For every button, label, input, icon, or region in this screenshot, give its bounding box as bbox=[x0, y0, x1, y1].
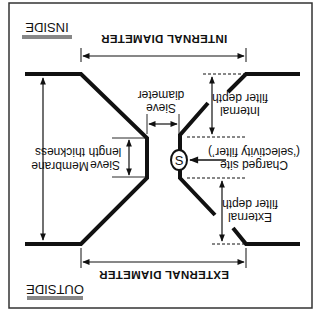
inside-label: INSIDE bbox=[25, 20, 69, 35]
external-diameter-label: EXTERNAL DIAMETER bbox=[99, 269, 230, 281]
svg-text:thickness: thickness bbox=[35, 145, 85, 159]
inside-label-group: INSIDE bbox=[22, 20, 72, 38]
outside-label: OUTSIDE bbox=[26, 282, 84, 297]
outside-label-group: OUTSIDE bbox=[26, 282, 84, 299]
external-filter-depth-label: External filter depth bbox=[222, 197, 278, 224]
svg-text:Sieve: Sieve bbox=[90, 158, 120, 172]
internal-filter-depth-label: Internal filter depth bbox=[212, 91, 268, 118]
membrane-wall-right-inner-bottom bbox=[180, 170, 215, 215]
sieve-diameter-label: Sieve diameter bbox=[138, 88, 185, 115]
membrane-wall-right-inner-top bbox=[180, 103, 208, 150]
ion-channel-diagram: INSIDE OUTSIDE INTERNAL DIAMETER EXTERNA… bbox=[0, 0, 321, 312]
diagram-canvas: INSIDE OUTSIDE INTERNAL DIAMETER EXTERNA… bbox=[0, 0, 321, 312]
svg-text:Internal: Internal bbox=[220, 104, 260, 118]
svg-text:External: External bbox=[228, 210, 272, 224]
svg-text:length: length bbox=[89, 145, 122, 159]
membrane-wall-right-bottom bbox=[233, 228, 300, 244]
svg-text:filter depth: filter depth bbox=[212, 91, 268, 105]
svg-text:Sieve: Sieve bbox=[146, 101, 176, 115]
internal-diameter-label: INTERNAL DIAMETER bbox=[100, 33, 227, 45]
sieve-length-label: Sieve length bbox=[89, 145, 122, 172]
svg-text:(‘selectivity filter’): (‘selectivity filter’) bbox=[208, 145, 300, 159]
svg-text:Membrane: Membrane bbox=[31, 159, 89, 173]
charged-site-symbol: S bbox=[175, 153, 184, 168]
svg-text:filter depth: filter depth bbox=[222, 197, 278, 211]
membrane-wall-right-top bbox=[228, 74, 300, 92]
svg-text:Charged site: Charged site bbox=[220, 158, 288, 172]
charged-site-label: Charged site (‘selectivity filter’) bbox=[208, 145, 300, 172]
svg-text:diameter: diameter bbox=[138, 88, 185, 102]
membrane-thickness-label: Membrane thickness bbox=[31, 145, 89, 173]
